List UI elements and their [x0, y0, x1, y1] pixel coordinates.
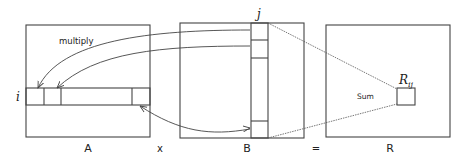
- row-index-label: i: [16, 90, 20, 104]
- row-i: [26, 88, 150, 105]
- multiply-label: multiply: [59, 36, 94, 46]
- label-a: A: [84, 142, 92, 155]
- label-b: B: [243, 142, 251, 155]
- sum-lines: [268, 23, 397, 138]
- rij-label: Rij: [398, 73, 414, 89]
- col-index-label: j: [254, 7, 261, 21]
- arrow-2: [57, 46, 250, 88]
- arrow-3: [140, 106, 250, 132]
- arrow-3b: [137, 104, 250, 130]
- label-r: R: [386, 142, 394, 155]
- equals-operator: =: [312, 143, 320, 154]
- matrix-b: [180, 23, 304, 138]
- matrix-r: [326, 25, 450, 137]
- matrix-multiplication-diagram: multiply Sum i j Rij A x B = R: [0, 0, 470, 158]
- times-operator: x: [157, 143, 163, 154]
- sum-label: Sum: [357, 92, 374, 101]
- result-cell-rij: [397, 88, 415, 105]
